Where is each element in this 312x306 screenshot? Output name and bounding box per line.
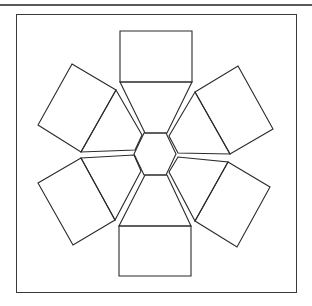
rectangle-lower-left — [38, 158, 115, 245]
trapezoid-bottom — [119, 175, 191, 226]
trapezoid-top — [120, 82, 192, 133]
face-upper-right — [169, 66, 273, 154]
trapezoid-upper-left — [81, 90, 142, 152]
trapezoid-upper-right — [169, 92, 230, 154]
rectangle-bottom — [119, 226, 191, 276]
face-lower-right — [169, 157, 270, 247]
rectangle-top — [120, 31, 192, 82]
diagram-frame — [17, 15, 297, 293]
hexagon-net-diagram — [0, 0, 312, 306]
rectangle-lower-right — [195, 162, 270, 247]
face-upper-left — [38, 64, 142, 152]
rectangle-upper-left — [38, 64, 116, 152]
face-bottom — [119, 175, 191, 276]
radiating-faces — [38, 31, 273, 276]
trapezoid-lower-left — [81, 155, 141, 220]
trapezoid-lower-right — [169, 157, 228, 221]
rectangle-upper-right — [195, 66, 273, 154]
face-top — [120, 31, 192, 133]
face-lower-left — [38, 155, 141, 245]
